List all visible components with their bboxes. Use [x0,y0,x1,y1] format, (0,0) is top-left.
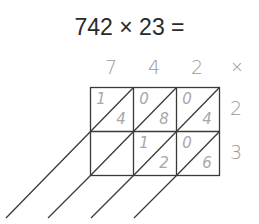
cell-tens-digit: 0 [180,92,194,107]
cell-tens-digit: 0 [180,136,194,151]
cell-tens-digit: 0 [137,92,151,107]
cell-ones-digit: 8 [157,112,171,127]
cell-tens-digit: 1 [137,136,151,151]
cell-ones-digit: 4 [114,112,128,127]
cell-ones-digit: 4 [200,112,214,127]
cell-ones-digit: 6 [200,156,214,171]
cell-tens-digit: 1 [94,92,108,107]
lattice-grid [0,0,259,224]
cell-ones-digit: 2 [157,156,171,171]
